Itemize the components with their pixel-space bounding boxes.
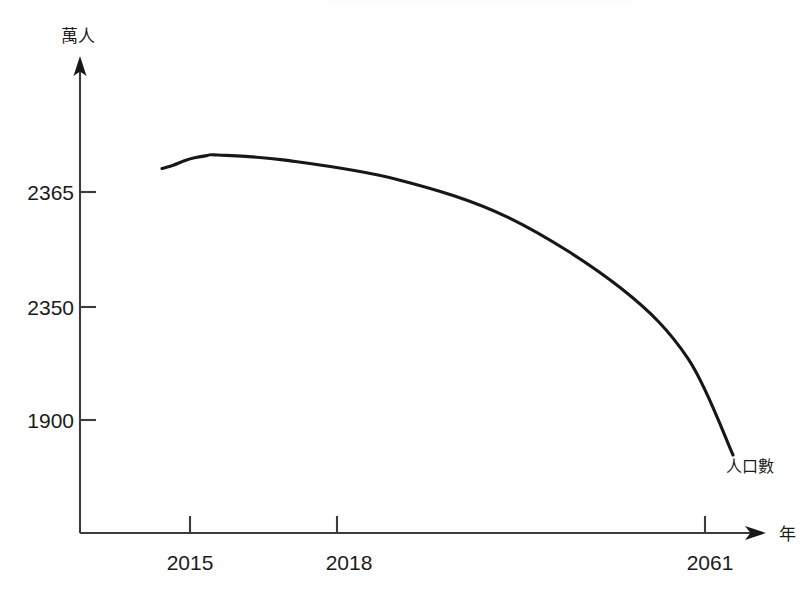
x-tick-label-2018: 2018 [326, 551, 373, 574]
x-axis-group [80, 526, 766, 540]
y-tick-group-2350: 2350 [27, 296, 96, 319]
x-tick-group-2061: 2061 [687, 516, 734, 574]
y-axis-group [74, 56, 87, 533]
x-tick-label-2061: 2061 [687, 551, 734, 574]
series-label-population: 人口數 [726, 457, 774, 476]
x-tick-label-2015: 2015 [167, 551, 214, 574]
y-axis-unit-label: 萬人 [61, 26, 95, 46]
population-projection-chart: 萬人 2365 2350 1900 年 2015 2018 [0, 0, 806, 594]
x-tick-group-2015: 2015 [167, 516, 214, 574]
x-axis-unit-label: 年 [779, 524, 796, 544]
y-tick-group-1900: 1900 [27, 409, 96, 432]
y-tick-group-2365: 2365 [27, 181, 96, 204]
y-tick-label-2365: 2365 [27, 181, 74, 204]
chart-canvas: 萬人 2365 2350 1900 年 2015 2018 [0, 0, 806, 594]
population-curve [162, 155, 733, 455]
y-tick-label-2350: 2350 [27, 296, 74, 319]
x-tick-group-2018: 2018 [326, 516, 373, 574]
y-tick-label-1900: 1900 [27, 409, 74, 432]
